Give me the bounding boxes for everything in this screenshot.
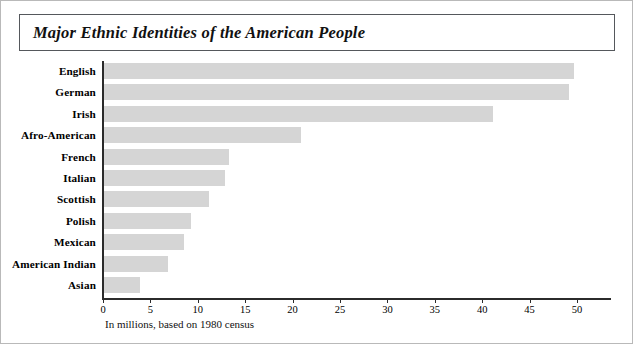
bar-mexican (104, 234, 184, 250)
bar-scottish (104, 191, 209, 207)
category-label-polish: Polish (66, 215, 96, 227)
tick-label-5: 5 (148, 304, 153, 315)
chart-page: Major Ethnic Identities of the American … (0, 0, 633, 344)
category-label-american-indian: American Indian (12, 258, 96, 270)
category-label-irish: Irish (72, 108, 96, 120)
bar-polish (104, 213, 191, 229)
tick-mark-40 (482, 298, 483, 303)
tick-label-50: 50 (572, 304, 583, 315)
tick-mark-5 (150, 298, 151, 303)
tick-label-40: 40 (477, 304, 488, 315)
tick-label-25: 25 (335, 304, 346, 315)
tick-mark-0 (103, 298, 104, 303)
tick-mark-25 (340, 298, 341, 303)
category-label-scottish: Scottish (57, 193, 96, 205)
tick-label-20: 20 (287, 304, 298, 315)
tick-label-10: 10 (193, 304, 204, 315)
tick-mark-20 (293, 298, 294, 303)
tick-mark-50 (577, 298, 578, 303)
tick-mark-15 (245, 298, 246, 303)
bar-english (104, 63, 574, 79)
bar-irish (104, 106, 493, 122)
bar-italian (104, 170, 225, 186)
category-label-italian: Italian (63, 172, 96, 184)
bar-afro-american (104, 127, 301, 143)
category-label-german: German (55, 86, 96, 98)
bar-chart: EnglishGermanIrishAfro-AmericanFrenchIta… (1, 1, 633, 344)
tick-mark-45 (530, 298, 531, 303)
category-label-afro-american: Afro-American (21, 129, 96, 141)
bar-american-indian (104, 256, 168, 272)
category-label-french: French (61, 151, 96, 163)
category-label-asian: Asian (68, 279, 96, 291)
tick-label-30: 30 (382, 304, 393, 315)
tick-mark-35 (435, 298, 436, 303)
tick-label-0: 0 (100, 304, 105, 315)
tick-label-35: 35 (430, 304, 441, 315)
tick-label-45: 45 (524, 304, 535, 315)
axis-caption: In millions, based on 1980 census (105, 318, 254, 330)
category-label-mexican: Mexican (54, 236, 96, 248)
bar-french (104, 149, 229, 165)
tick-mark-10 (198, 298, 199, 303)
tick-label-15: 15 (240, 304, 251, 315)
bar-asian (104, 277, 140, 293)
x-axis-line (102, 298, 611, 300)
tick-mark-30 (387, 298, 388, 303)
category-label-english: English (59, 65, 96, 77)
bar-german (104, 84, 569, 100)
